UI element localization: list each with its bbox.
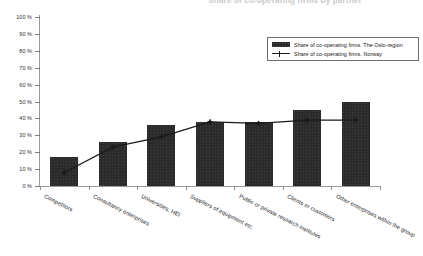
x-axis-tick [283,186,284,190]
y-axis-tick [35,17,40,18]
bar [196,122,224,186]
x-axis-label: Universities, HEI [141,193,182,218]
y-axis-tick [35,85,40,86]
y-axis-tick-label: 0 % [0,183,32,189]
bar [342,102,370,187]
y-axis-tick-label: 50 % [0,99,32,105]
x-axis-label: Clients or customers [286,193,336,222]
y-axis-tick [35,34,40,35]
chart-title: Share of co-operating firms by partner [150,0,420,8]
chart-container: Share of co-operating firms by partner 1… [0,0,423,256]
bar [147,125,175,186]
legend-item-label: Share of co-operating firms. The Oslo-re… [294,42,403,48]
legend-bar-swatch-icon [270,40,292,49]
y-axis-tick-label: 70 % [0,65,32,71]
y-axis-tick [35,169,40,170]
y-axis-tick-label: 30 % [0,132,32,138]
chart-legend: Share of co-operating firms. The Oslo-re… [267,37,419,61]
y-axis-tick-label: 90 % [0,31,32,37]
y-axis-tick [35,118,40,119]
y-axis-tick-label: 20 % [0,149,32,155]
legend-line-marker-icon [270,49,292,58]
x-axis-tick [380,186,381,190]
bar [99,142,127,186]
y-axis-tick [35,152,40,153]
x-axis-tick [89,186,90,190]
legend-item-oslo-region: Share of co-operating firms. The Oslo-re… [270,40,416,49]
y-axis-tick [35,68,40,69]
x-axis-tick [137,186,138,190]
legend-item-norway: Share of co-operating firms. Norway [270,49,416,58]
x-axis-line [39,186,380,187]
bar [245,122,273,186]
y-axis-tick-label: 10 % [0,166,32,172]
legend-item-label: Share of co-operating firms. Norway [294,51,382,57]
x-axis-tick [331,186,332,190]
y-axis-tick-label: 60 % [0,82,32,88]
bar [50,157,78,186]
y-axis-tick [35,51,40,52]
x-axis-tick [186,186,187,190]
bar [293,110,321,186]
x-axis-tick [234,186,235,190]
y-axis-tick [35,102,40,103]
x-axis-label: Other enterprises within the group [335,193,416,238]
y-axis-tick [35,135,40,136]
y-axis-tick-label: 100 % [0,14,32,20]
y-axis-tick-label: 40 % [0,115,32,121]
x-axis-tick [40,186,41,190]
x-axis-label: Competitors [44,193,75,213]
x-axis-label: Public or private research institutes [238,193,322,240]
y-axis-tick-label: 80 % [0,48,32,54]
